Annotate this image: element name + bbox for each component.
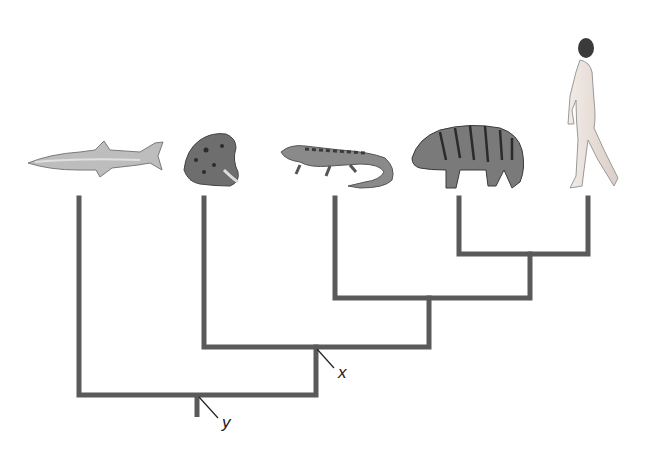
node-x-label: x xyxy=(317,349,347,382)
tiger-icon xyxy=(412,125,524,188)
node-y-label: y xyxy=(199,397,232,432)
lizard-icon xyxy=(281,146,393,188)
frog-icon xyxy=(184,134,238,186)
human-icon xyxy=(568,38,618,188)
shark-icon xyxy=(28,141,163,177)
svg-text:y: y xyxy=(221,413,232,432)
cladogram: x y xyxy=(0,0,655,453)
svg-text:x: x xyxy=(337,363,347,382)
tree-branches xyxy=(79,198,588,417)
